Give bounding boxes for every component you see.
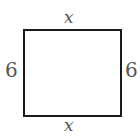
right-side-label: 6 — [125, 60, 138, 80]
left-side-label: 6 — [5, 60, 18, 80]
bottom-side-label: x — [64, 117, 74, 134]
top-side-label: x — [64, 9, 74, 26]
rectangle-shape — [23, 29, 122, 117]
